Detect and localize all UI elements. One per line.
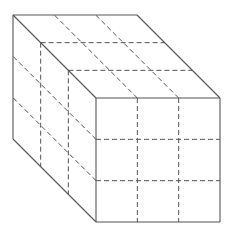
side-grid-depth-line xyxy=(13,56,96,139)
bottom-left-depth-edge xyxy=(13,139,96,222)
cube-figure xyxy=(0,0,238,237)
top-left-depth-edge xyxy=(13,15,96,98)
top-grid-depth-line xyxy=(54,15,137,98)
cube-diagram xyxy=(0,0,238,237)
side-grid-depth-line xyxy=(13,98,96,181)
top-right-depth-edge xyxy=(137,15,220,98)
cube-outline xyxy=(13,15,220,222)
top-grid-depth-line xyxy=(96,15,179,98)
